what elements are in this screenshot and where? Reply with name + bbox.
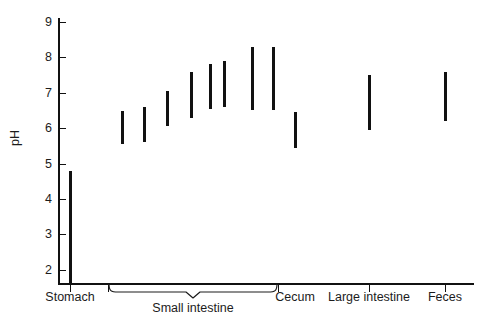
range-bar [166, 91, 169, 126]
y-axis-tick [60, 164, 66, 165]
y-axis-tick [60, 128, 66, 129]
y-axis-tick-label: 4 [32, 193, 52, 205]
y-axis-title: pH [9, 130, 21, 146]
y-axis-tick [60, 93, 66, 94]
y-axis-tick [60, 57, 66, 58]
category-label-cecum: Cecum [275, 290, 315, 304]
y-axis-tick-label: 6 [32, 122, 52, 134]
category-label-large-intestine: Large intestine [328, 290, 410, 304]
y-axis-tick [60, 234, 66, 235]
y-axis-tick [60, 270, 66, 271]
y-axis-tick-label: 3 [32, 228, 52, 240]
y-axis-tick [60, 22, 66, 23]
range-bar [223, 61, 226, 107]
y-axis-tick [60, 199, 66, 200]
ph-range-chart: 98765432 pH Stomach Cecum Large intestin… [0, 0, 484, 320]
y-axis-tick-label: 5 [32, 158, 52, 170]
y-axis-tick-label: 9 [32, 16, 52, 28]
small-intestine-brace-icon [108, 283, 278, 299]
range-bar [121, 111, 124, 145]
range-bar [143, 107, 146, 142]
y-axis-tick-label: 2 [32, 264, 52, 276]
range-bar [69, 171, 72, 284]
range-bar [272, 47, 275, 111]
range-bar [209, 64, 212, 108]
category-label-small-intestine: Small intestine [152, 301, 233, 315]
range-bar [294, 112, 297, 147]
y-axis-tick-label: 7 [32, 87, 52, 99]
y-axis-tick-label: 8 [32, 51, 52, 63]
range-bar [368, 75, 371, 130]
category-label-stomach: Stomach [45, 290, 94, 304]
category-label-feces: Feces [428, 290, 462, 304]
range-bar [251, 47, 254, 111]
range-bar [190, 72, 193, 118]
range-bar [444, 72, 447, 122]
